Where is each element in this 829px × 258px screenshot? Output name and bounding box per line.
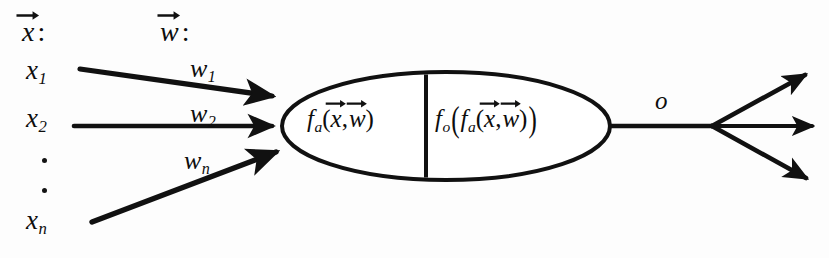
activation-f-base: f [307, 105, 314, 132]
activation-arg-w-base: w [349, 106, 366, 131]
output-comma: , [495, 105, 502, 132]
input-arrow-1 [80, 69, 272, 96]
input-x1-base: x [26, 55, 38, 85]
output-function-expression: fo(fa( x , w )) [435, 104, 538, 134]
activation-f-subscript: a [314, 118, 322, 135]
activation-arg-x: x [331, 104, 342, 131]
diagram-canvas [0, 0, 829, 258]
output-arrow-down [712, 126, 806, 178]
w-vector-base: w [160, 18, 179, 46]
activation-function-expression: fa( x , w ) [307, 104, 374, 134]
input-vector-header: x : [22, 16, 45, 46]
output-f-subscript: o [442, 118, 450, 135]
input-label-x2: x2 [26, 105, 47, 136]
weight-wn-subscript: n [201, 160, 210, 177]
input-label-x1: x1 [26, 57, 47, 88]
output-arg-x-base: x [484, 106, 495, 131]
output-arg-x: x [484, 104, 495, 131]
weight-vector-colon: : [179, 16, 190, 47]
output-arg-w: w [502, 104, 519, 131]
activation-close-paren: ) [366, 106, 374, 131]
weight-label-w2: w2 [190, 101, 216, 130]
activation-arg-w: w [349, 104, 366, 131]
w-vector-symbol: w [160, 16, 179, 46]
output-label-o: o [655, 88, 668, 113]
input-x1-subscript: 1 [38, 69, 47, 88]
vertical-ellipsis-dot [42, 158, 47, 163]
weight-w1-subscript: 1 [207, 68, 216, 85]
x-vector-base: x [22, 18, 34, 46]
input-x2-subscript: 2 [38, 117, 47, 136]
activation-open-paren: ( [322, 106, 330, 131]
input-xn-base: x [26, 205, 38, 235]
input-xn-subscript: n [38, 219, 47, 238]
input-vector-colon: : [34, 16, 45, 47]
activation-comma: , [342, 105, 349, 132]
output-arg-w-base: w [502, 106, 519, 131]
x-vector-symbol: x [22, 16, 34, 46]
weight-label-w1: w1 [190, 56, 216, 85]
output-outer-open-paren: ( [450, 100, 460, 136]
output-inner-open-paren: ( [476, 106, 484, 131]
weight-w2-subscript: 2 [207, 113, 216, 130]
output-outer-close-paren: ) [527, 100, 537, 136]
output-arrow-up [712, 75, 805, 126]
input-label-xn: xn [26, 207, 47, 238]
weight-w1-base: w [190, 54, 207, 83]
weight-wn-base: w [184, 146, 201, 175]
weight-label-wn: wn [184, 148, 210, 177]
output-inner-f-subscript: a [467, 118, 475, 135]
input-x2-base: x [26, 103, 38, 133]
output-f-base: f [435, 105, 442, 132]
output-inner-close-paren: ) [519, 106, 527, 131]
activation-arg-x-base: x [331, 106, 342, 131]
weight-vector-header: w : [160, 16, 189, 46]
vertical-ellipsis-dot [42, 188, 47, 193]
weight-w2-base: w [190, 99, 207, 128]
neuron-diagram-figure: x : w : x1 x2 xn w1 w2 wn fa( x , [0, 0, 829, 258]
